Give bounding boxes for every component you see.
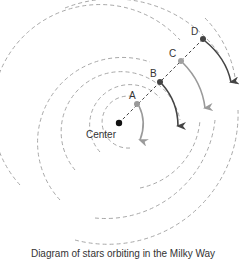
orbit-arc-2 xyxy=(90,85,160,152)
star-c-dot xyxy=(178,58,184,64)
star-b-dot xyxy=(157,79,163,85)
arrow-a xyxy=(139,106,143,140)
orbit-arc-6 xyxy=(0,5,180,185)
star-c-label: C xyxy=(169,48,176,59)
milky-way-orbit-diagram: Center A B C D xyxy=(0,0,246,259)
star-d-label: D xyxy=(191,26,198,37)
arrow-d xyxy=(205,41,231,82)
center-label: Center xyxy=(86,129,117,140)
center-dot xyxy=(116,120,122,126)
arrow-c xyxy=(183,63,205,108)
star-a-label: A xyxy=(129,90,136,101)
diagram-caption: Diagram of stars orbiting in the Milky W… xyxy=(0,248,246,259)
star-d-dot xyxy=(200,36,206,42)
orbit-arc-10 xyxy=(205,18,236,85)
star-a-dot xyxy=(134,101,140,107)
star-b-label: B xyxy=(150,68,157,79)
